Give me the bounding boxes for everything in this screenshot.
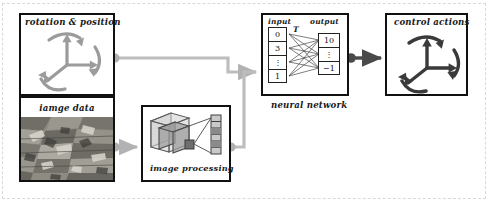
- input-cell: ⋮: [268, 55, 287, 69]
- image-data-label: iamge data: [39, 103, 95, 113]
- image-processing-label: image processing: [150, 163, 234, 173]
- neural-network-label: neural network: [271, 100, 347, 110]
- rubble-photograph-icon: [21, 117, 113, 180]
- network-output-column: 10 ⋮ −1: [318, 33, 340, 75]
- output-cell: ⋮: [318, 47, 340, 61]
- input-cell: 3: [268, 41, 287, 55]
- control-actions-axes-icon: [385, 13, 468, 96]
- rotation-axes-icon: [19, 13, 115, 96]
- output-cell: −1: [318, 61, 340, 75]
- input-cell: 1: [268, 69, 287, 83]
- wire-network-to-control: [346, 53, 381, 63]
- wire-rotation-to-network: [110, 53, 256, 72]
- convolution-cube-stack-icon: [145, 109, 227, 160]
- input-cell: 0: [268, 27, 287, 41]
- network-input-column: 0 3 ⋮ 1: [268, 27, 287, 83]
- output-cell: 10: [318, 33, 340, 47]
- image-data-label-strip: iamge data: [21, 98, 113, 117]
- diagram-canvas: rotation & position iamge data: [0, 0, 488, 202]
